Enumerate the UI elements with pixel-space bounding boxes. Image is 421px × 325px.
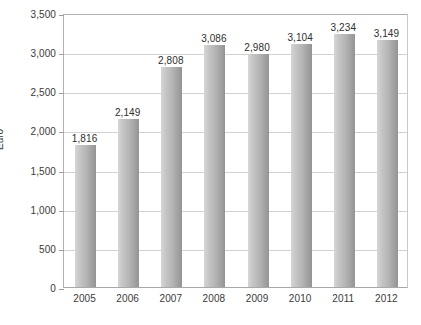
x-axis-tick-label: 2011 [320, 293, 366, 304]
x-axis-tick-label: 2009 [234, 293, 280, 304]
y-axis-tick-mark [59, 93, 64, 94]
bar[interactable] [291, 44, 312, 287]
bar-value-label: 3,104 [277, 32, 323, 43]
y-axis-tick-labels: 05001,0001,5002,0002,5003,0003,500 [0, 14, 56, 288]
gridline [64, 211, 407, 212]
x-axis-tick-label: 2008 [191, 293, 237, 304]
bar-value-label: 3,086 [191, 33, 237, 44]
gridline [64, 93, 407, 94]
y-axis-tick-label: 3,000 [8, 48, 56, 59]
gridline [64, 54, 407, 55]
bar[interactable] [334, 34, 355, 287]
x-axis-tick-label: 2005 [62, 293, 108, 304]
x-axis-tick-label: 2006 [105, 293, 151, 304]
bar[interactable] [118, 119, 139, 287]
y-axis-tick-mark [59, 54, 64, 55]
bar-value-label: 2,149 [105, 107, 151, 118]
y-axis-tick-label: 3,500 [8, 9, 56, 20]
x-axis-tick-label: 2012 [363, 293, 409, 304]
y-axis-tick-label: 1,000 [8, 204, 56, 215]
bar-value-label: 2,808 [148, 55, 194, 66]
y-axis-tick-mark [59, 289, 64, 290]
bar-value-label: 2,980 [234, 42, 280, 53]
y-axis-tick-label: 1,500 [8, 165, 56, 176]
x-axis-tick-label: 2010 [277, 293, 323, 304]
y-axis-title: Euro [0, 129, 5, 150]
bar[interactable] [204, 45, 225, 287]
y-axis-tick-label: 2,000 [8, 126, 56, 137]
plot-area [63, 14, 408, 288]
bar[interactable] [75, 145, 96, 287]
bar[interactable] [161, 67, 182, 287]
gridline [64, 132, 407, 133]
y-axis-tick-mark [59, 15, 64, 16]
y-axis-tick-label: 0 [8, 283, 56, 294]
y-axis-tick-mark [59, 250, 64, 251]
bar-value-label: 3,234 [320, 22, 366, 33]
bar[interactable] [248, 54, 269, 287]
figure-caption [8, 316, 308, 325]
y-axis-tick-label: 2,500 [8, 87, 56, 98]
gridline [64, 172, 407, 173]
bar[interactable] [377, 40, 398, 287]
bar-value-label: 1,816 [62, 133, 108, 144]
gridline [64, 250, 407, 251]
y-axis-tick-label: 500 [8, 243, 56, 254]
bar-value-label: 3,149 [363, 28, 409, 39]
x-axis-tick-label: 2007 [148, 293, 194, 304]
chart-figure: 05001,0001,5002,0002,5003,0003,500 Euro … [0, 0, 421, 325]
y-axis-tick-mark [59, 172, 64, 173]
y-axis-tick-mark [59, 211, 64, 212]
